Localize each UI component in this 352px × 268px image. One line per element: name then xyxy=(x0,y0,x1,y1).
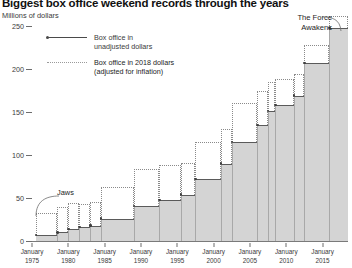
annotation-jaws: Jaws xyxy=(57,188,74,198)
x-tick-mark xyxy=(32,243,33,247)
y-tick-mark xyxy=(26,69,32,70)
bar-separator xyxy=(159,200,160,241)
x-tick-mark xyxy=(140,243,141,247)
bar-separator xyxy=(294,96,295,241)
x-tick-label: January1985 xyxy=(93,248,116,265)
x-tick-label: January2000 xyxy=(202,248,225,265)
bar-separator xyxy=(57,232,58,241)
y-tick-label: 0 xyxy=(6,237,24,246)
bar-unadjusted xyxy=(90,226,101,241)
bar-unadjusted xyxy=(79,227,90,241)
record-marker xyxy=(220,162,222,164)
y-tick-mark xyxy=(26,241,32,242)
y-tick-mark xyxy=(26,26,32,27)
y-tick-mark xyxy=(26,112,32,113)
x-tick-label: January2005 xyxy=(239,248,262,265)
bar-adjusted xyxy=(90,202,101,225)
record-marker xyxy=(133,205,135,207)
bar-unadjusted xyxy=(268,111,275,241)
bar-unadjusted xyxy=(275,105,293,241)
annotation-line2: Awakens xyxy=(276,23,332,33)
bar-adjusted xyxy=(268,82,275,111)
bar-adjusted xyxy=(101,187,134,219)
bar-adjusted xyxy=(134,169,159,206)
x-tick-label: January1990 xyxy=(130,248,153,265)
bar-unadjusted xyxy=(195,179,220,241)
x-tick-label: January1995 xyxy=(166,248,189,265)
bar-unadjusted xyxy=(257,125,268,241)
y-tick-label: 100 xyxy=(6,151,24,160)
bar-adjusted xyxy=(36,213,58,235)
bar-adjusted xyxy=(68,203,79,229)
x-tick-label: January1980 xyxy=(57,248,80,265)
y-tick-label: 250 xyxy=(6,22,24,31)
bar-adjusted xyxy=(294,74,305,96)
x-tick-label: January1975 xyxy=(21,248,44,265)
legend-dotted-line-icon xyxy=(47,62,87,63)
legend-item-adjusted: Box office in 2018 dollars (adjusted for… xyxy=(47,58,174,76)
record-marker xyxy=(67,228,69,230)
x-tick-label: January2015 xyxy=(311,248,334,265)
chart-legend: Box office in unadjusted dollars Box off… xyxy=(47,33,174,83)
x-tick-mark xyxy=(286,243,287,247)
bar-separator xyxy=(268,111,269,241)
bar-unadjusted xyxy=(159,200,181,241)
bar-unadjusted xyxy=(294,96,305,241)
legend-label-line2: unadjusted dollars xyxy=(94,42,174,51)
x-tick-mark xyxy=(177,243,178,247)
bar-unadjusted xyxy=(304,63,329,241)
bar-separator xyxy=(232,142,233,241)
record-marker xyxy=(89,224,91,226)
x-tick-mark xyxy=(68,243,69,247)
bar-unadjusted xyxy=(57,232,68,241)
bar-separator xyxy=(195,179,196,241)
annotation-force-awakens: The Force Awakens xyxy=(276,13,332,32)
bar-adjusted xyxy=(304,45,329,63)
legend-item-unadjusted: Box office in unadjusted dollars xyxy=(47,33,174,51)
x-axis-baseline xyxy=(32,241,348,242)
bar-unadjusted xyxy=(221,164,232,241)
bar-separator xyxy=(68,229,69,241)
bar-adjusted xyxy=(275,79,293,105)
bar-separator xyxy=(101,219,102,241)
box-office-records-chart: Biggest box office weekend records throu… xyxy=(0,0,352,268)
bar-unadjusted xyxy=(134,206,159,241)
record-marker xyxy=(256,124,258,126)
bar-separator xyxy=(275,105,276,241)
bar-unadjusted xyxy=(68,229,79,241)
bar-unadjusted xyxy=(329,28,348,241)
bar-adjusted xyxy=(181,163,196,195)
y-tick-label: 200 xyxy=(6,65,24,74)
bar-separator xyxy=(304,63,305,241)
y-tick-label: 150 xyxy=(6,108,24,117)
bar-adjusted xyxy=(195,142,220,179)
record-marker xyxy=(158,199,160,201)
bar-unadjusted xyxy=(232,142,257,241)
y-tick-label: 50 xyxy=(6,194,24,203)
x-tick-label: January2010 xyxy=(275,248,298,265)
record-marker xyxy=(293,94,295,96)
bar-separator xyxy=(329,28,330,241)
legend-label-line1: Box office in xyxy=(94,33,174,42)
bar-separator xyxy=(221,164,222,241)
bar-separator xyxy=(90,226,91,241)
x-tick-mark xyxy=(249,243,250,247)
x-tick-mark xyxy=(322,243,323,247)
x-tick-mark xyxy=(213,243,214,247)
bar-separator xyxy=(257,125,258,241)
bar-adjusted xyxy=(221,129,232,163)
bar-adjusted xyxy=(257,91,268,125)
x-tick-mark xyxy=(104,243,105,247)
annotation-line1: The Force xyxy=(276,13,332,23)
bar-unadjusted xyxy=(181,195,196,241)
bar-separator xyxy=(79,227,80,241)
legend-label-line2: (adjusted for inflation) xyxy=(94,67,174,76)
bar-unadjusted xyxy=(101,219,134,241)
bar-adjusted xyxy=(159,165,181,199)
bar-adjusted xyxy=(232,103,257,143)
y-tick-mark xyxy=(26,155,32,156)
bar-separator xyxy=(181,195,182,241)
record-marker xyxy=(303,62,305,64)
bar-separator xyxy=(134,206,135,241)
y-tick-mark xyxy=(26,198,32,199)
